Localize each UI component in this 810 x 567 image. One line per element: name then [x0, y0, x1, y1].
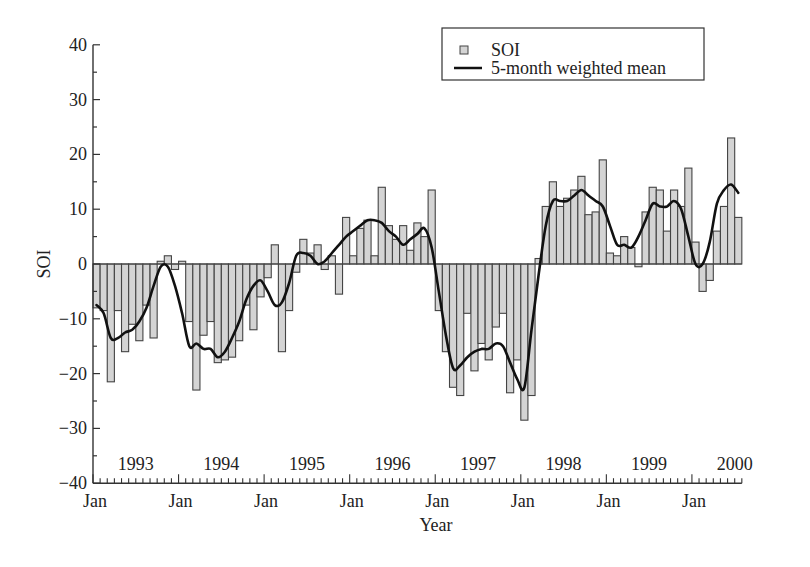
soi-bar: [278, 264, 285, 352]
soi-bar: [250, 264, 257, 330]
y-tick-label: 20: [69, 144, 87, 164]
soi-bar: [114, 264, 121, 311]
soi-bar: [107, 264, 114, 382]
legend-label-mean: 5-month weighted mean: [491, 58, 666, 78]
soi-bar: [392, 239, 399, 264]
soi-bar: [628, 248, 635, 264]
legend-label-soi: SOI: [491, 40, 520, 60]
soi-bar: [720, 206, 727, 264]
soi-bar: [350, 256, 357, 264]
y-tick-label: −30: [59, 418, 87, 438]
soi-bar: [357, 228, 364, 264]
soi-bar: [207, 264, 214, 322]
soi-bars: [93, 138, 742, 420]
soi-bar: [499, 264, 506, 313]
soi-bar: [271, 245, 278, 264]
year-label: 2000: [717, 454, 753, 474]
soi-bar: [136, 264, 143, 341]
year-label: 1993: [118, 454, 154, 474]
x-tick-label-jan: Jan: [682, 491, 706, 511]
soi-bar: [93, 264, 100, 308]
year-label: 1996: [375, 454, 411, 474]
y-tick-label: −20: [59, 364, 87, 384]
y-axis-label: SOI: [34, 249, 54, 278]
year-label: 1999: [631, 454, 667, 474]
x-axis: JanJanJanJanJanJanJanJan1993199419951996…: [83, 454, 753, 511]
year-label: 1997: [460, 454, 496, 474]
y-tick-label: −40: [59, 473, 87, 493]
x-axis-label: Year: [419, 515, 452, 535]
x-tick-label-jan: Jan: [254, 491, 278, 511]
soi-bar: [713, 231, 720, 264]
soi-bar: [421, 237, 428, 264]
soi-bar: [514, 264, 521, 360]
y-tick-label: 0: [78, 254, 87, 274]
soi-bar: [193, 264, 200, 390]
chart-canvas: −40−30−20−10010203040 JanJanJanJanJanJan…: [0, 0, 810, 567]
soi-bar: [556, 206, 563, 264]
y-tick-label: 10: [69, 199, 87, 219]
y-tick-label: −10: [59, 309, 87, 329]
soi-bar: [663, 231, 670, 264]
soi-bar: [478, 264, 485, 343]
soi-bar: [606, 253, 613, 264]
y-tick-label: 40: [69, 35, 87, 55]
soi-bar: [549, 182, 556, 264]
soi-bar: [122, 264, 129, 352]
soi-bar: [706, 264, 713, 280]
soi-bar: [735, 217, 742, 264]
soi-bar: [592, 212, 599, 264]
y-tick-label: 30: [69, 90, 87, 110]
soi-bar: [200, 264, 207, 335]
soi-bar: [457, 264, 464, 396]
soi-bar: [521, 264, 528, 420]
x-tick-label-jan: Jan: [596, 491, 620, 511]
soi-bar: [728, 138, 735, 264]
y-axis: −40−30−20−10010203040: [59, 35, 100, 493]
soi-bar: [321, 264, 328, 269]
soi-bar: [564, 198, 571, 264]
soi-bar: [164, 256, 171, 264]
soi-bar: [364, 220, 371, 264]
soi-bar: [186, 264, 193, 322]
soi-bar: [507, 264, 514, 393]
soi-bar: [621, 237, 628, 264]
soi-bar: [371, 256, 378, 264]
soi-bar: [407, 250, 414, 264]
soi-bar: [100, 264, 107, 311]
soi-bar: [464, 264, 471, 313]
soi-bar: [214, 264, 221, 363]
year-label: 1998: [546, 454, 582, 474]
x-tick-label-jan: Jan: [169, 491, 193, 511]
soi-bar: [264, 264, 271, 278]
soi-bar: [129, 264, 136, 324]
legend: SOI 5-month weighted mean: [442, 28, 704, 80]
soi-bar: [656, 190, 663, 264]
soi-bar: [171, 264, 178, 269]
soi-bar: [571, 190, 578, 264]
soi-bar: [492, 264, 499, 327]
soi-bar: [649, 187, 656, 264]
x-tick-label-jan: Jan: [340, 491, 364, 511]
soi-bar: [585, 215, 592, 264]
x-tick-label-jan: Jan: [511, 491, 535, 511]
x-tick-label-jan: Jan: [83, 491, 107, 511]
x-tick-label-jan: Jan: [425, 491, 449, 511]
legend-bar-swatch-icon: [460, 46, 468, 54]
soi-bar: [613, 256, 620, 264]
year-label: 1995: [289, 454, 325, 474]
soi-bar: [335, 264, 342, 294]
soi-chart: −40−30−20−10010203040 JanJanJanJanJanJan…: [0, 0, 810, 567]
year-label: 1994: [203, 454, 239, 474]
